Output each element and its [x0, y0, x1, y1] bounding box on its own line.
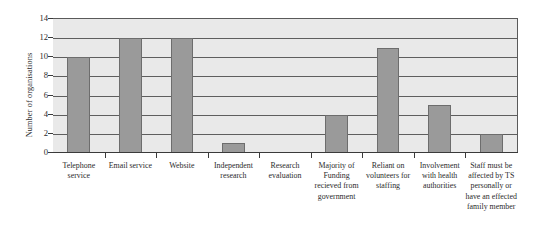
bar [171, 38, 194, 153]
y-axis-tick-label: 14 [30, 14, 48, 23]
y-axis-tick-label: 2 [30, 128, 48, 137]
y-axis-tick-mark [48, 18, 53, 19]
x-axis-tick-label: Email service [105, 161, 157, 171]
x-axis-tick-labels: Telephone serviceEmail serviceWebsiteInd… [53, 161, 517, 237]
x-axis-tick-label: Independent research [208, 161, 260, 181]
y-axis-tick-label: 0 [30, 148, 48, 157]
y-axis-tick-label: 12 [30, 33, 48, 42]
bar [119, 38, 142, 153]
y-axis-tick-labels: 14121086420 [30, 12, 48, 152]
plot-area [53, 18, 518, 153]
x-axis-line [53, 152, 518, 153]
x-axis-tick-label: Research evaluation [259, 161, 311, 181]
y-axis-tick-label: 4 [30, 109, 48, 118]
y-axis-tick-mark [48, 37, 53, 38]
y-axis-tick-mark [48, 114, 53, 115]
x-axis-tick-mark [311, 153, 312, 158]
bar [428, 105, 451, 153]
bar-chart: Number of organisations 14121086420 Tele… [0, 0, 535, 237]
x-axis-tick-label: Majority of Funding recieved from govern… [311, 161, 363, 202]
x-axis-tick-mark [156, 153, 157, 158]
x-axis-tick-mark [414, 153, 415, 158]
bar [480, 134, 503, 153]
x-axis-tick-mark [259, 153, 260, 158]
y-axis-tick-label: 6 [30, 90, 48, 99]
x-axis-tick-label: Website [156, 161, 208, 171]
bar [67, 57, 90, 153]
y-axis-tick-label: 10 [30, 52, 48, 61]
x-axis-tick-label: Involvement with health authorities [414, 161, 466, 192]
x-axis-tick-mark [208, 153, 209, 158]
x-axis-tick-label: Telephone service [53, 161, 105, 181]
y-axis-tick-label: 8 [30, 71, 48, 80]
y-axis-tick-mark [48, 152, 53, 153]
x-axis-tick-mark [465, 153, 466, 158]
y-axis-tick-mark [48, 133, 53, 134]
bar [377, 48, 400, 153]
y-axis-tick-mark [48, 56, 53, 57]
y-axis-tick-mark [48, 95, 53, 96]
x-axis-tick-label: Reliant on volunteers for staffing [362, 161, 414, 192]
x-axis-tick-mark [362, 153, 363, 158]
x-axis-tick-mark [105, 153, 106, 158]
y-axis-tick-mark [48, 75, 53, 76]
bar [325, 115, 348, 153]
x-axis-tick-label: Staff must be affected by TS personally … [465, 161, 517, 212]
